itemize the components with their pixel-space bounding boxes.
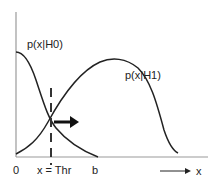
- tick-label-0: 0: [13, 164, 19, 176]
- decision-arrow-head: [70, 116, 79, 128]
- x-axis-label: x: [196, 165, 202, 177]
- tick-label-thr: x = Thr: [37, 164, 72, 176]
- label-h1: p(x|H1): [125, 69, 161, 81]
- diagram-canvas: p(x|H0) p(x|H1) 0 x = Thr b x: [0, 0, 216, 183]
- label-h0: p(x|H0): [27, 38, 63, 50]
- diagram-svg: p(x|H0) p(x|H1) 0 x = Thr b x: [0, 0, 216, 183]
- curve-h0: [16, 52, 98, 157]
- x-direction-arrow-head: [185, 168, 191, 174]
- tick-label-b: b: [92, 164, 98, 176]
